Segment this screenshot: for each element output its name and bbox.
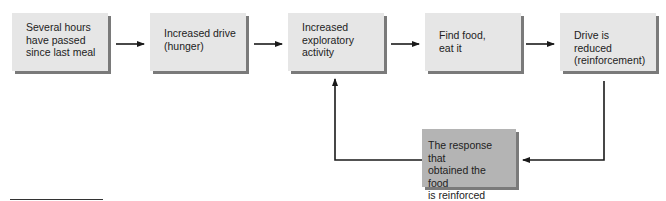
footnote-rule bbox=[10, 199, 103, 200]
box-response-reinforced: The response that obtained the food is r… bbox=[422, 129, 516, 187]
arrow-b6-b3 bbox=[335, 79, 422, 160]
box-increased-drive: Increased drive (hunger) bbox=[150, 13, 246, 71]
box-increased-exploratory-activity: Increased exploratory activity bbox=[288, 13, 384, 71]
arrow-b5-b6 bbox=[523, 81, 604, 160]
box-find-food: Find food, eat it bbox=[425, 13, 521, 71]
box-several-hours-passed: Several hours have passed since last mea… bbox=[12, 13, 108, 71]
box-drive-reduced: Drive is reduced (reinforcement) bbox=[560, 13, 656, 71]
